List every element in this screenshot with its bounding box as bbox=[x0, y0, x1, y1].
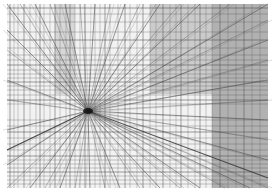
vanishing-point-core bbox=[83, 108, 93, 114]
perspective-artwork bbox=[0, 0, 274, 195]
vanishing-point bbox=[83, 108, 93, 114]
